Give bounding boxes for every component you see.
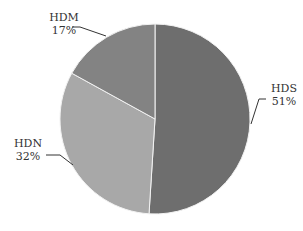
slice-label-hdm-value: 17% [46,24,82,37]
slice-label-hdn-name: HDN [10,137,46,150]
slice-label-hds-value: 51% [266,95,302,108]
slice-label-hdn: HDN 32% [10,137,46,163]
slice-label-hdn-value: 32% [10,150,46,163]
slice-label-hds-name: HDS [266,82,302,95]
leader-line-hds [251,99,266,124]
pie-slice-hds [149,24,250,214]
slice-label-hds: HDS 51% [266,82,302,108]
slice-label-hdm-name: HDM [46,11,82,24]
slice-label-hdm: HDM 17% [46,11,82,37]
pie-slices [60,24,250,214]
